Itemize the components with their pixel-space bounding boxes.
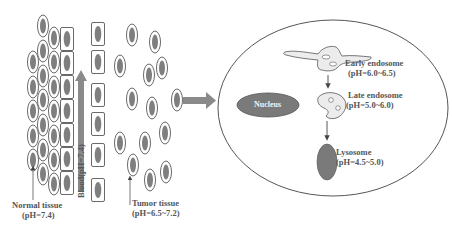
late-endosome-ph: (pH=5.0~6.0)	[346, 101, 394, 110]
normal-tissue-ph: (pH=7.4)	[22, 211, 54, 220]
lysosome-ph: (pH=4.5~5.0)	[336, 158, 384, 167]
lysosome-label: Lysosome	[336, 148, 371, 157]
tumor-tissue-label: Tumor tissue	[132, 199, 179, 208]
lysosome	[317, 144, 337, 180]
nucleus-label: Nucleus	[254, 101, 281, 109]
vessel-wall-left	[61, 28, 74, 195]
uptake-arrow	[183, 92, 216, 109]
blood-label: Blood(pH=7.4)	[77, 144, 86, 198]
late-endosome-label: Late endosome	[348, 91, 403, 100]
vessel-wall-right	[92, 23, 105, 202]
early-endosome-label: Early endosome	[345, 59, 403, 68]
diagram-graphics	[0, 0, 452, 227]
tumor-tissue-cells	[115, 24, 183, 191]
early-endosome-ph: (pH=6.0~6.5)	[348, 69, 396, 78]
tumor-tissue-ph: (pH=6.5~7.2)	[132, 209, 180, 218]
normal-tissue-label: Normal tissue	[12, 201, 62, 210]
ph-gradient-diagram: Normal tissue (pH=7.4) Blood(pH=7.4) Tum…	[0, 0, 452, 227]
normal-tissue-cells	[28, 15, 60, 195]
